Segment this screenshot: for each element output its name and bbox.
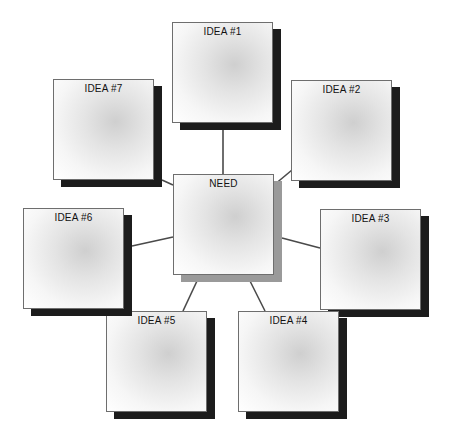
connector-idea6-need xyxy=(132,237,173,246)
box-face: IDEA #1 xyxy=(172,22,273,123)
idea-label: IDEA #6 xyxy=(24,212,123,223)
idea-box-3: IDEA #3 xyxy=(320,209,421,310)
connector-idea7-need xyxy=(162,180,173,185)
box-face: IDEA #7 xyxy=(53,79,154,180)
idea-box-6: IDEA #6 xyxy=(23,208,124,309)
need-box: NEED xyxy=(173,174,274,275)
connector-idea4-need xyxy=(250,281,265,311)
idea-box-2: IDEA #2 xyxy=(291,80,392,181)
idea-box-1: IDEA #1 xyxy=(172,22,273,123)
box-face: IDEA #4 xyxy=(238,311,339,412)
connector-idea3-need xyxy=(282,238,320,248)
need-label: NEED xyxy=(174,178,273,189)
idea-box-5: IDEA #5 xyxy=(106,311,207,412)
idea-label: IDEA #3 xyxy=(321,213,420,224)
connector-idea5-need xyxy=(183,281,197,311)
box-face: IDEA #6 xyxy=(23,208,124,309)
idea-label: IDEA #7 xyxy=(54,83,153,94)
idea-box-7: IDEA #7 xyxy=(53,79,154,180)
box-face: IDEA #5 xyxy=(106,311,207,412)
idea-label: IDEA #1 xyxy=(173,26,272,37)
box-face: IDEA #3 xyxy=(320,209,421,310)
box-face: IDEA #2 xyxy=(291,80,392,181)
box-face: NEED xyxy=(173,174,274,275)
idea-label: IDEA #4 xyxy=(239,315,338,326)
idea-label: IDEA #5 xyxy=(107,315,206,326)
idea-map-diagram: IDEA #1 IDEA #2 IDEA #3 IDEA #4 IDEA #5 … xyxy=(0,0,453,439)
idea-box-4: IDEA #4 xyxy=(238,311,339,412)
idea-label: IDEA #2 xyxy=(292,84,391,95)
